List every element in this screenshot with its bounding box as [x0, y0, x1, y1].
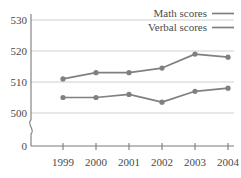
chart-canvas: 530 520 510 500 0 1999 2000 2001 2002 20… [0, 0, 241, 178]
x-tick-label-2003: 2003 [184, 156, 207, 168]
legend-label-verbal: Verbal scores [148, 21, 207, 33]
x-tick-label-2002: 2002 [151, 156, 173, 168]
x-tick-labels: 1999 2000 2001 2002 2003 2004 [52, 156, 240, 168]
y-tick-label-520: 520 [11, 45, 28, 57]
y-tick-labels: 530 520 510 500 0 [11, 14, 28, 152]
y-axis-break-icon [30, 120, 33, 146]
y-tick-label-510: 510 [11, 76, 28, 88]
x-axis [31, 143, 234, 150]
data-point [225, 86, 230, 91]
x-tick-label-2004: 2004 [217, 156, 240, 168]
data-point [192, 52, 197, 57]
data-series-layer [60, 52, 230, 105]
series-verbal-scores [60, 86, 230, 105]
y-axis [30, 14, 33, 146]
series-line [63, 54, 228, 79]
data-point [225, 55, 230, 60]
y-tick-label-530: 530 [11, 14, 28, 26]
y-tick-label-0: 0 [22, 140, 28, 152]
data-point [159, 100, 164, 105]
data-point [60, 76, 65, 81]
data-point [159, 65, 164, 70]
legend-label-math: Math scores [154, 7, 207, 19]
y-tick-label-500: 500 [11, 107, 28, 119]
data-point [93, 95, 98, 100]
x-tick-label-2000: 2000 [85, 156, 108, 168]
data-point [126, 70, 131, 75]
data-point [93, 70, 98, 75]
series-line [63, 88, 228, 102]
data-point [60, 95, 65, 100]
line-chart: 530 520 510 500 0 1999 2000 2001 2002 20… [0, 0, 241, 178]
data-point [192, 89, 197, 94]
data-point [126, 92, 131, 97]
series-math-scores [60, 52, 230, 82]
x-tick-label-1999: 1999 [52, 156, 75, 168]
x-tick-label-2001: 2001 [118, 156, 140, 168]
